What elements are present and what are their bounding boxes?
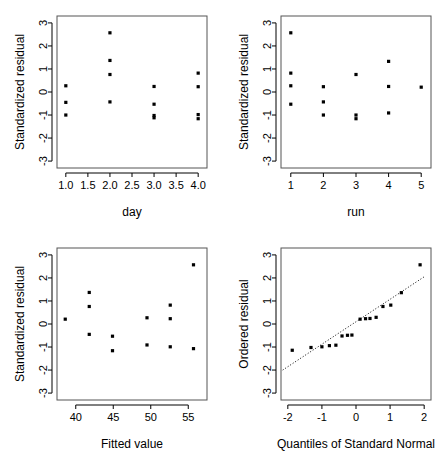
y-tick-label: -1 <box>261 110 273 120</box>
y-tick-label: 1 <box>37 66 49 72</box>
x-tick-label: -2 <box>283 411 293 423</box>
data-point <box>289 103 292 106</box>
x-tick-label: -1 <box>317 411 327 423</box>
y-tick-label: 2 <box>37 43 49 49</box>
data-point <box>289 72 292 75</box>
y-tick-label: -2 <box>261 365 273 375</box>
x-tick-label: 1.0 <box>58 179 73 191</box>
x-tick-label: 45 <box>107 411 119 423</box>
x-tick-label: 4.0 <box>191 179 206 191</box>
data-point <box>289 31 292 34</box>
data-point <box>197 113 200 116</box>
data-point <box>354 73 357 76</box>
x-axis-title: day <box>122 205 141 219</box>
data-point <box>346 334 349 337</box>
x-tick-label: 2 <box>421 411 427 423</box>
data-point <box>364 317 367 320</box>
plot-residual-vs-fitted: -3-2-10123Standardized residual40455055F… <box>0 232 224 464</box>
data-point <box>152 116 155 119</box>
y-tick-label: -1 <box>37 110 49 120</box>
data-point <box>420 86 423 89</box>
data-point <box>197 72 200 75</box>
y-tick-label: 2 <box>37 275 49 281</box>
plot-frame <box>281 248 431 400</box>
plot-frame <box>57 16 207 168</box>
x-tick-label: 3 <box>353 179 359 191</box>
data-point <box>322 85 325 88</box>
y-tick-label: 0 <box>261 89 273 95</box>
y-tick-label: 1 <box>261 298 273 304</box>
x-axis: 1.01.52.02.53.03.54.0 <box>58 173 206 191</box>
y-tick-label: -2 <box>37 133 49 143</box>
y-tick-label: -3 <box>261 388 273 398</box>
panel-normal-qq: -3-2-10123Ordered residual-2-1012Quantil… <box>224 232 448 464</box>
panel-residual-vs-day: -3-2-10123Standardized residual1.01.52.0… <box>0 0 224 232</box>
y-tick-label: 1 <box>261 66 273 72</box>
x-tick-label: 2.0 <box>102 179 117 191</box>
data-points <box>64 31 200 120</box>
data-point <box>88 291 91 294</box>
data-point <box>400 291 403 294</box>
data-point <box>368 317 371 320</box>
data-point <box>108 73 111 76</box>
data-point <box>152 85 155 88</box>
data-point <box>381 305 384 308</box>
data-point <box>169 304 172 307</box>
data-point <box>387 85 390 88</box>
x-tick-label: 3.5 <box>168 179 183 191</box>
x-tick-label: 50 <box>145 411 157 423</box>
data-point <box>152 103 155 106</box>
y-tick-label: 3 <box>261 252 273 258</box>
data-point <box>309 346 312 349</box>
plot-residual-vs-day: -3-2-10123Standardized residual1.01.52.0… <box>0 0 224 232</box>
data-point <box>169 317 172 320</box>
y-axis: -3-2-10123 <box>261 20 276 166</box>
data-point <box>64 84 67 87</box>
data-point <box>289 84 292 87</box>
data-point <box>145 343 148 346</box>
x-tick-label: 40 <box>70 411 82 423</box>
data-point <box>291 349 294 352</box>
data-point <box>320 345 323 348</box>
data-points <box>289 31 423 120</box>
data-point <box>192 263 195 266</box>
x-tick-label: 5 <box>418 179 424 191</box>
y-tick-label: 2 <box>261 43 273 49</box>
data-point <box>108 100 111 103</box>
y-tick-label: 2 <box>261 275 273 281</box>
data-point <box>197 85 200 88</box>
data-point <box>340 334 343 337</box>
x-axis: 12345 <box>288 173 425 191</box>
data-point <box>334 344 337 347</box>
y-axis-title: Standardized residual <box>13 266 27 382</box>
data-point <box>111 335 114 338</box>
data-point <box>192 347 195 350</box>
data-point <box>64 101 67 104</box>
y-axis-title: Standardized residual <box>237 34 251 150</box>
plot-frame <box>281 16 431 168</box>
y-tick-label: 1 <box>37 298 49 304</box>
x-axis: 40455055 <box>70 405 195 423</box>
data-point <box>197 117 200 120</box>
y-axis: -3-2-10123 <box>37 252 52 398</box>
data-point <box>354 113 357 116</box>
data-point <box>358 318 361 321</box>
diagnostic-plot-figure: -3-2-10123Standardized residual1.01.52.0… <box>0 0 448 464</box>
y-tick-label: -3 <box>37 156 49 166</box>
plot-frame <box>57 248 207 400</box>
y-axis-title: Ordered residual <box>237 279 251 368</box>
x-tick-label: 0 <box>353 411 359 423</box>
data-point <box>64 113 67 116</box>
x-tick-label: 1 <box>288 179 294 191</box>
y-tick-label: 0 <box>37 321 49 327</box>
y-axis: -3-2-10123 <box>37 20 52 166</box>
y-tick-label: 0 <box>37 89 49 95</box>
x-tick-label: 1.5 <box>80 179 95 191</box>
data-point <box>387 60 390 63</box>
data-point <box>169 345 172 348</box>
y-tick-label: 3 <box>37 20 49 26</box>
x-tick-label: 2.5 <box>124 179 139 191</box>
y-tick-label: -3 <box>261 156 273 166</box>
y-tick-label: 3 <box>37 252 49 258</box>
data-point <box>328 344 331 347</box>
